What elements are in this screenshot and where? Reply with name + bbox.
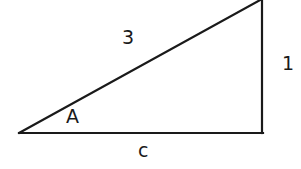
angle-label: A [66, 107, 79, 126]
opposite-side-label: 1 [282, 54, 294, 73]
right-triangle-diagram [0, 0, 301, 169]
hypotenuse-label: 3 [122, 28, 134, 47]
hypotenuse-side [19, 0, 262, 133]
adjacent-side-label: c [138, 141, 148, 160]
